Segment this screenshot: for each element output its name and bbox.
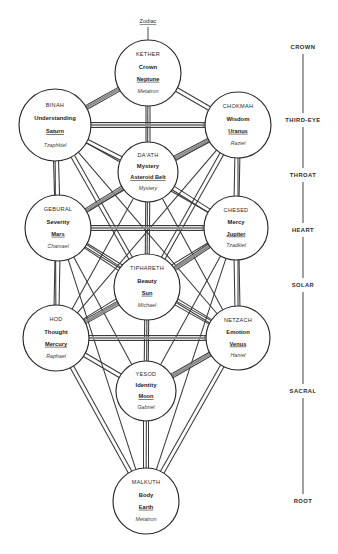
connection-line — [234, 260, 235, 306]
sphere-concept-malkuth: Body — [139, 492, 154, 498]
sphere-planet-binah: Saturn — [46, 128, 65, 134]
sphere-planet-tiphareth: Sun — [142, 290, 153, 296]
connection-line — [171, 352, 209, 374]
connection-line — [239, 158, 240, 196]
connection-line — [54, 261, 55, 305]
sphere-concept-binah: Understanding — [34, 115, 76, 121]
sephiroth-spheres: KETHERCrownNeptuneMetatronBINAHUnderstan… — [19, 40, 271, 534]
sphere-name-binah: BINAH — [46, 102, 64, 108]
flash-arrow — [85, 87, 123, 108]
sphere-concept-hod: Thought — [44, 329, 68, 335]
sphere-planet-geburah: Mars — [51, 231, 64, 237]
sphere-name-netzach: NETZACH — [224, 317, 252, 323]
chakra-label-throat: THROAT — [290, 172, 316, 178]
sphere-daath[interactable]: DA'ATHMysteryAsteroid BeltMystery — [118, 142, 178, 202]
connection-line — [174, 186, 210, 209]
connection-line — [173, 356, 211, 378]
sphere-planet-hod: Mercury — [45, 341, 68, 347]
sphere-binah[interactable]: BINAHUnderstandingSaturnTzaphkiel — [19, 89, 91, 161]
sphere-geburah[interactable]: GEBURALSeverityMarsChamael — [25, 195, 91, 261]
flash-arrow — [84, 186, 126, 212]
zodiac-label: Zodiac — [140, 18, 157, 24]
sphere-name-kether: KETHER — [136, 51, 160, 57]
sphere-outline-hod — [23, 305, 89, 371]
connection-line — [87, 91, 120, 109]
sphere-angel-kether: Metatron — [138, 88, 159, 94]
flash-arrow — [173, 138, 212, 159]
connection-line — [83, 356, 119, 377]
chakra-label-third-eye: THIRD-EYE — [285, 117, 320, 123]
sphere-planet-chokmah: Uranus — [228, 128, 248, 134]
sphere-planet-yesod: Moon — [138, 393, 154, 399]
sphere-angel-yesod: Gabriel — [137, 404, 155, 410]
sphere-hod[interactable]: HODThoughtMercuryRaphael — [23, 305, 89, 371]
sphere-netzach[interactable]: NETZACHEmotionVenusHaniel — [206, 306, 270, 370]
connection-line — [173, 244, 208, 267]
sphere-outline-netzach — [206, 306, 270, 370]
sphere-angel-geburah: Chamael — [47, 243, 69, 249]
connection-line — [59, 161, 60, 195]
sphere-malkuth[interactable]: MALKUTHBodyEarthMetatron — [113, 468, 179, 534]
flash-arrow — [170, 352, 213, 377]
connection-line — [174, 139, 208, 157]
connection-line — [85, 353, 121, 374]
sphere-outline-tiphareth — [114, 254, 180, 320]
connection-line — [87, 245, 121, 268]
sphere-chesed[interactable]: CHESEDMercyJupiterTzadkiel — [204, 196, 268, 260]
sphere-outline-geburah — [25, 195, 91, 261]
sphere-angel-tiphareth: Michael — [138, 302, 157, 308]
sphere-planet-daath: Asteroid Belt — [130, 174, 166, 180]
connection-line — [234, 158, 235, 196]
sphere-outline-binah — [19, 89, 91, 161]
chakra-label-solar: SOLAR — [292, 282, 315, 288]
sphere-angel-daath: Mystery — [139, 185, 158, 191]
sphere-concept-yesod: Identity — [136, 382, 158, 388]
connection-line — [84, 301, 117, 320]
flash-arrow — [83, 301, 122, 323]
sphere-name-geburah: GEBURAL — [44, 206, 72, 212]
chakra-label-crown: CROWN — [291, 44, 316, 50]
sphere-planet-kether: Neptune — [137, 76, 160, 82]
chakra-label-sacral: SACRAL — [290, 388, 317, 394]
tree-of-life-diagram: ZodiacCROWNTHIRD-EYETHROATHEARTSOLARSACR… — [0, 0, 338, 554]
sphere-concept-daath: Mystery — [137, 163, 160, 169]
sphere-angel-netzach: Haniel — [230, 352, 246, 358]
sphere-name-malkuth: MALKUTH — [132, 479, 160, 485]
flash-arrow — [173, 243, 213, 269]
sphere-concept-kether: Crown — [139, 64, 158, 70]
sphere-planet-chesed: Jupiter — [227, 231, 247, 237]
sphere-concept-tiphareth: Beauty — [137, 278, 157, 284]
sphere-chokmah[interactable]: CHOKMAHWisdomUranusRaziel — [205, 92, 271, 158]
sphere-yesod[interactable]: YESODIdentityMoonGabriel — [116, 361, 176, 421]
connection-line — [85, 87, 118, 105]
connection-line — [176, 91, 209, 110]
sphere-name-daath: DA'ATH — [137, 152, 158, 158]
sphere-angel-chokmah: Raziel — [231, 140, 247, 146]
sphere-outline-chokmah — [205, 92, 271, 158]
sphere-outline-kether — [115, 40, 181, 106]
sphere-kether[interactable]: KETHERCrownNeptuneMetatron — [115, 40, 181, 106]
sphere-outline-malkuth — [113, 468, 179, 534]
chakra-label-root: ROOT — [294, 498, 313, 504]
sphere-concept-geburah: Severity — [47, 219, 71, 225]
sphere-name-chokmah: CHOKMAH — [223, 103, 253, 109]
sphere-name-yesod: YESOD — [136, 371, 157, 377]
sphere-angel-malkuth: Metatron — [136, 516, 157, 522]
sphere-angel-binah: Tzaphkiel — [44, 142, 67, 148]
sphere-tiphareth[interactable]: TIPHARETHBeautySunMichael — [114, 254, 180, 320]
sphere-angel-hod: Raphael — [46, 353, 67, 359]
connection-line — [59, 261, 60, 305]
sphere-name-hod: HOD — [49, 316, 62, 322]
sphere-name-tiphareth: TIPHARETH — [130, 265, 164, 271]
connection-line — [239, 260, 240, 306]
sphere-name-chesed: CHESED — [224, 207, 249, 213]
sphere-planet-malkuth: Earth — [139, 504, 154, 510]
chakra-label-heart: HEART — [292, 227, 314, 233]
sphere-angel-chesed: Tzadkiel — [226, 242, 247, 248]
sphere-concept-chokmah: Wisdom — [227, 116, 250, 122]
sphere-concept-netzach: Emotion — [226, 329, 250, 335]
sphere-planet-netzach: Venus — [230, 341, 247, 347]
sphere-outline-chesed — [204, 196, 268, 260]
connection-line — [178, 88, 211, 107]
connection-line — [54, 161, 55, 195]
